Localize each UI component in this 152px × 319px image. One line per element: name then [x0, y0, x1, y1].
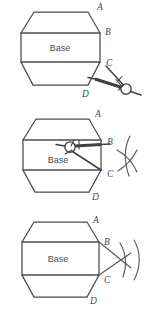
vertex-label-d-3: D [89, 296, 97, 306]
vertex-label-c-1: C [106, 58, 113, 68]
base-label-1: Base [50, 43, 71, 53]
vertex-label-b-1: B [105, 27, 111, 37]
panel-2: Base A B C D [23, 109, 137, 202]
panel-1: Base A B C D [21, 2, 141, 99]
panel-3: Base A B C D [22, 215, 139, 306]
octagon-bottom-cap-1 [21, 62, 100, 85]
base-label-2: Base [48, 155, 69, 165]
construction-diagram: Base A B C D [0, 0, 152, 319]
vertex-label-c-3: C [104, 275, 111, 285]
base-label-3: Base [48, 254, 69, 264]
octagon-top-cap-1 [21, 12, 100, 33]
vertex-label-a-2: A [94, 109, 101, 119]
vertex-label-a-3: A [92, 215, 99, 225]
compass-hinge-1 [121, 84, 131, 94]
vertex-label-b-2: B [107, 137, 113, 147]
vertex-label-c-2: C [107, 169, 114, 179]
octagon-top-cap-2 [23, 119, 101, 140]
octagon-bottom-cap-3 [22, 275, 99, 297]
arc-from-c-3 [134, 240, 139, 280]
vertex-label-d-2: D [91, 192, 99, 202]
figure-canvas: Base A B C D [0, 0, 152, 319]
vertex-label-d-1: D [81, 89, 89, 99]
vertex-label-a-1: A [96, 2, 103, 12]
compass-tail-1 [131, 92, 142, 96]
octagon-top-cap-3 [22, 222, 99, 242]
octagon-bottom-cap-2 [23, 170, 101, 192]
arc-cross-2 [118, 150, 137, 171]
vertex-label-b-3: B [104, 237, 110, 247]
